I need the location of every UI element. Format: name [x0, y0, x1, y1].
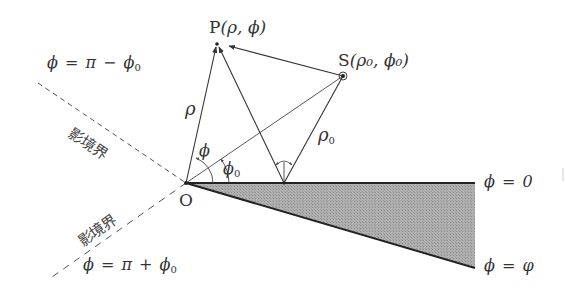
lower-boundary-equation: ϕ = π + ϕ0: [83, 257, 177, 275]
phi0-subscript: 0: [234, 168, 240, 179]
reflected-angle-arc: [284, 161, 292, 165]
upper-shadow-boundary-line: [38, 83, 186, 183]
wedge-top-equation: ϕ = 0: [484, 174, 533, 190]
upper-boundary-eq-subscript: 0: [134, 62, 140, 73]
observer-name: P: [209, 17, 220, 37]
reflection-point: [283, 182, 286, 185]
upper-boundary-eq-text: ϕ = π − ϕ: [47, 53, 134, 72]
source-point: [341, 74, 345, 78]
direct-ray: [229, 46, 343, 76]
rho0-symbol: ρ: [318, 124, 329, 145]
lower-boundary-eq-subscript: 0: [170, 264, 176, 275]
rho-label: ρ: [185, 100, 196, 118]
wedge-bottom-eq-text: ϕ = φ: [484, 256, 534, 275]
phi-angle-label: ϕ: [199, 143, 210, 159]
wedge-top-eq-text: ϕ = 0: [484, 172, 533, 191]
observer-point: [215, 42, 219, 46]
rho0-subscript: 0: [329, 135, 335, 146]
source-name: S: [338, 50, 350, 70]
rho0-label: ρ0: [318, 126, 335, 146]
phi0-symbol: ϕ: [223, 159, 234, 178]
wedge-bottom-equation: ϕ = φ: [484, 258, 534, 274]
origin-point: [184, 181, 188, 185]
observer-label: P(ρ, ϕ): [209, 19, 266, 36]
origin-label: O: [179, 192, 193, 209]
incident-angle-arc: [276, 161, 284, 165]
source-label: S(ρ₀, ϕ₀): [338, 52, 409, 69]
observer-coords: (ρ, ϕ): [220, 17, 266, 37]
phi-symbol: ϕ: [199, 141, 210, 160]
lower-boundary-eq-text: ϕ = π + ϕ: [83, 255, 170, 274]
upper-boundary-equation: ϕ = π − ϕ0: [47, 55, 141, 73]
source-coords: (ρ₀, ϕ₀): [350, 50, 409, 70]
origin-name: O: [179, 190, 193, 210]
rho-symbol: ρ: [185, 98, 196, 119]
phi0-angle-label: ϕ0: [223, 161, 240, 179]
